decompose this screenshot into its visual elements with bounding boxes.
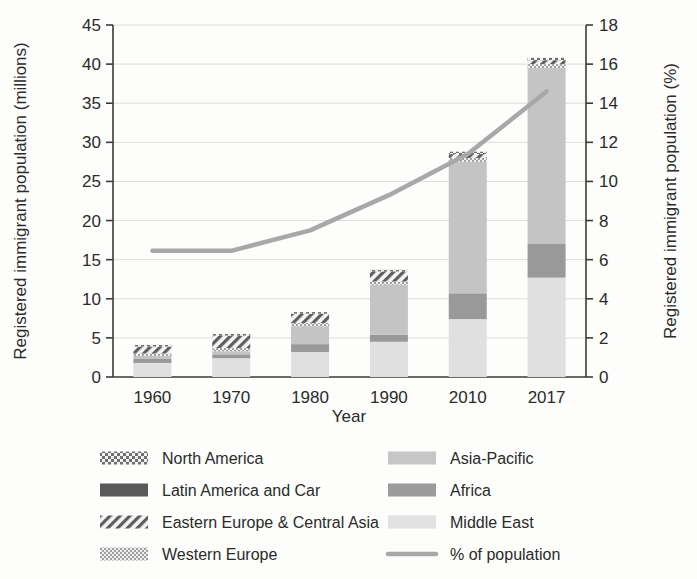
y2-tick-label: 0 <box>599 368 608 387</box>
chart-container: 051015202530354045 024681012141618 19601… <box>0 0 697 579</box>
y2-tick-label: 16 <box>599 55 618 74</box>
y-tick-label: 0 <box>92 368 101 387</box>
bar-segment <box>291 344 329 352</box>
bar-segment <box>133 346 171 353</box>
bar-segment <box>370 271 408 281</box>
bar-segment <box>449 162 487 293</box>
legend-item-label: Western Europe <box>162 546 277 563</box>
x-axis-title: Year <box>332 407 367 426</box>
bar-segment <box>370 282 408 285</box>
legend-item: North America <box>100 450 263 467</box>
y-tick-label: 35 <box>82 94 101 113</box>
bar-group <box>370 270 408 377</box>
bar-segment <box>291 312 329 314</box>
legend-item-label: % of population <box>450 546 560 563</box>
bar-segment <box>133 345 171 347</box>
bar-segment <box>212 351 250 354</box>
y-tick-label: 45 <box>82 16 101 35</box>
bar-segment <box>212 336 250 349</box>
y-tick-label: 40 <box>82 55 101 74</box>
bar-group <box>449 152 487 377</box>
legend-item-label: Africa <box>450 482 491 499</box>
y2-tick-label: 4 <box>599 290 608 309</box>
y2-tick-label: 12 <box>599 133 618 152</box>
legend-item: Eastern Europe & Central Asia <box>100 514 379 531</box>
legend-swatch <box>388 484 436 497</box>
bar-group <box>212 334 250 377</box>
legend-swatch <box>388 452 436 465</box>
y2-tick-label: 18 <box>599 16 618 35</box>
legend-item-label: Asia-Pacific <box>450 450 534 467</box>
bar-segment <box>291 314 329 323</box>
legend-item: Asia-Pacific <box>388 450 534 467</box>
x-tick-label: 1960 <box>134 388 172 407</box>
y2-tick-label: 14 <box>599 94 618 113</box>
bar-segment <box>528 278 566 377</box>
bar-segment <box>528 60 566 64</box>
x-tick-label: 1980 <box>291 388 329 407</box>
bar-group <box>133 345 171 377</box>
y2-axis-title: Registered immigrant population (%) <box>661 63 680 339</box>
bar-segment <box>291 326 329 344</box>
bar-segment <box>133 354 171 356</box>
bar-segment <box>133 363 171 377</box>
bar-segment <box>291 323 329 326</box>
bar-group <box>291 312 329 377</box>
y-tick-label: 30 <box>82 133 101 152</box>
bar-segment <box>212 334 250 336</box>
bar-group <box>528 58 566 377</box>
x-tick-label: 2017 <box>528 388 566 407</box>
bar-segment <box>212 358 250 377</box>
legend-item: Latin America and Car <box>100 482 321 499</box>
legend-item-label: Middle East <box>450 514 534 531</box>
y-axis-title: Registered immigrant population (million… <box>11 42 30 359</box>
bar-segment <box>449 319 487 377</box>
bar-segment <box>370 285 408 335</box>
x-tick-label: 1970 <box>212 388 250 407</box>
immigrant-population-chart: 051015202530354045 024681012141618 19601… <box>0 0 697 579</box>
legend-swatch <box>100 548 148 561</box>
legend-swatch <box>100 516 148 529</box>
y-tick-label: 5 <box>92 329 101 348</box>
legend-item: Western Europe <box>100 546 277 563</box>
bar-segment <box>528 244 566 278</box>
bar-segment <box>370 335 408 342</box>
bar-segment <box>212 348 250 351</box>
bar-segment <box>212 354 250 358</box>
legend-swatch <box>100 484 148 497</box>
bar-segment <box>133 356 171 359</box>
y-tick-label: 10 <box>82 290 101 309</box>
legend-item-label: Latin America and Car <box>162 482 321 499</box>
y2-tick-label: 10 <box>599 172 618 191</box>
x-tick-label: 2010 <box>449 388 487 407</box>
y2-tick-label: 2 <box>599 329 608 348</box>
bar-segment <box>528 64 566 68</box>
bar-segment <box>528 68 566 244</box>
legend-swatch <box>388 516 436 529</box>
x-tick-label: 1990 <box>370 388 408 407</box>
legend-item-label: Eastern Europe & Central Asia <box>162 514 379 531</box>
bar-segment <box>370 342 408 377</box>
bar-segment <box>449 293 487 319</box>
legend-swatch <box>100 452 148 465</box>
legend-item: Middle East <box>388 514 534 531</box>
bar-segment <box>291 352 329 377</box>
y2-tick-label: 8 <box>599 212 608 231</box>
bar-segment <box>133 359 171 363</box>
y-tick-label: 15 <box>82 251 101 270</box>
legend-item-label: North America <box>162 450 263 467</box>
y-tick-label: 20 <box>82 212 101 231</box>
y2-tick-label: 6 <box>599 251 608 270</box>
bar-segment <box>370 270 408 272</box>
bar-segment <box>528 58 566 60</box>
y-tick-label: 25 <box>82 172 101 191</box>
